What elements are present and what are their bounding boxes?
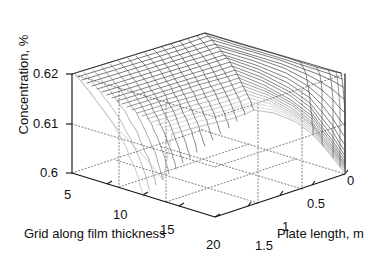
x-axis-tick-3: 20 xyxy=(206,237,220,252)
z-axis-tick-3: 0 xyxy=(347,173,354,188)
y-axis-tick-2: 0.6 xyxy=(40,165,58,180)
z-axis-tick-0: 1.5 xyxy=(255,238,273,253)
y-axis-title: Concentration, % xyxy=(16,20,31,150)
mesh-lines-plate-length xyxy=(72,33,345,173)
figure-3d-surface-plot: Concentration, % 0.62 0.61 0.6 5 10 15 2… xyxy=(0,0,368,266)
axis-frame xyxy=(72,74,345,217)
x-axis-tick-0: 5 xyxy=(64,187,71,202)
z-axis-title: Plate length, m xyxy=(277,226,364,241)
mesh-front-edge xyxy=(76,75,345,180)
y-axis-tick-0: 0.62 xyxy=(33,66,58,81)
y-axis-tick-1: 0.61 xyxy=(33,116,58,131)
x-axis-title: Grid along film thickness xyxy=(24,226,166,241)
z-axis-tick-2: 0.5 xyxy=(307,196,325,211)
x-axis-tick-1: 10 xyxy=(113,207,127,222)
floor-gridlines xyxy=(72,130,345,203)
